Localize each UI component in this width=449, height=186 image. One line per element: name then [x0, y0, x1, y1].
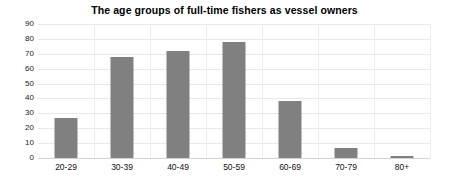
bar-60-69[interactable]	[279, 101, 302, 158]
chart-title: The age groups of full-time fishers as v…	[0, 4, 449, 17]
y-tick-label-30: 30	[0, 109, 34, 117]
y-tick-label-50: 50	[0, 80, 34, 88]
bar-slot	[318, 24, 374, 158]
y-tick-label-10: 10	[0, 139, 34, 147]
bar-slot	[38, 24, 94, 158]
bar-70-79[interactable]	[335, 148, 358, 158]
x-axis-tick-labels: 20-2930-3940-4950-5960-6970-7980+	[38, 162, 430, 178]
bar-slot	[206, 24, 262, 158]
y-tick-label-80: 80	[0, 35, 34, 43]
x-tick-label-80+: 80+	[374, 162, 430, 172]
y-tick-label-40: 40	[0, 94, 34, 102]
y-axis-tick-labels: 9080706050403020100	[0, 24, 34, 158]
y-tick-label-90: 90	[0, 20, 34, 28]
bar-40-49[interactable]	[167, 51, 190, 158]
x-tick-label-60-69: 60-69	[262, 162, 318, 172]
x-tick-label-40-49: 40-49	[150, 162, 206, 172]
bar-50-59[interactable]	[223, 42, 246, 158]
bar-20-29[interactable]	[55, 118, 78, 158]
bar-chart: The age groups of full-time fishers as v…	[0, 0, 449, 186]
bar-series	[38, 24, 430, 158]
gridline-v-7	[430, 24, 431, 158]
bar-30-39[interactable]	[111, 57, 134, 158]
bar-slot	[150, 24, 206, 158]
bar-slot	[374, 24, 430, 158]
x-tick-label-50-59: 50-59	[206, 162, 262, 172]
x-tick-label-30-39: 30-39	[94, 162, 150, 172]
bar-slot	[262, 24, 318, 158]
y-tick-label-70: 70	[0, 50, 34, 58]
x-tick-label-70-79: 70-79	[318, 162, 374, 172]
bar-80+[interactable]	[391, 156, 414, 158]
y-tick-label-60: 60	[0, 65, 34, 73]
bar-slot	[94, 24, 150, 158]
gridline-h-0	[38, 158, 430, 159]
y-tick-label-20: 20	[0, 124, 34, 132]
y-tick-label-0: 0	[0, 154, 34, 162]
x-tick-label-20-29: 20-29	[38, 162, 94, 172]
